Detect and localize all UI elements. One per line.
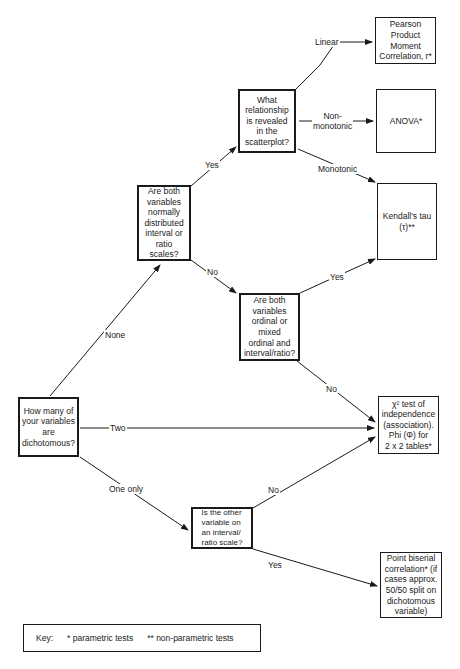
edge-label-yes-normal: Yes xyxy=(204,160,220,170)
node-text: Is the other variable on an interval/ ra… xyxy=(202,508,243,548)
result-text: χ² test of independence (association). P… xyxy=(382,399,435,452)
result-text: Pearson Product Moment Correlation, r* xyxy=(379,19,431,61)
edge-label-no-normal: No xyxy=(206,267,219,277)
result-text: Point biserial correlation* (if cases ap… xyxy=(385,553,438,617)
edge-label-non-monotonic: Non- monotonic xyxy=(312,111,353,131)
node-normal-interval: Are both variables normally distributed … xyxy=(137,185,191,261)
result-text: ANOVA* xyxy=(390,116,422,127)
key-parametric: * parametric tests xyxy=(67,633,133,643)
node-how-many-dichotomous: How many of your variables are dichotomo… xyxy=(18,397,79,457)
node-text: How many of your variables are dichotomo… xyxy=(22,406,75,448)
node-text: Are both variables normally distributed … xyxy=(144,186,183,260)
result-point-biserial: Point biserial correlation* (if cases ap… xyxy=(380,552,442,618)
edge-label-yes-other: Yes xyxy=(267,560,283,570)
edge-label-two: Two xyxy=(109,423,127,433)
edge-label-no-ordinal: No xyxy=(325,384,338,394)
edge-label-text: Non- monotonic xyxy=(313,111,352,131)
edge-label-no-other: No xyxy=(267,485,280,495)
result-chi-square: χ² test of independence (association). P… xyxy=(378,396,439,454)
key-non-parametric: ** non-parametric tests xyxy=(147,633,233,643)
node-scatterplot-relationship: What relationship is revealed in the sca… xyxy=(238,89,296,153)
edge-label-monotonic: Monotonic xyxy=(317,164,358,174)
result-anova: ANOVA* xyxy=(376,89,436,153)
key-title: Key: xyxy=(36,633,53,643)
result-kendall: Kendall's tau (τ)** xyxy=(377,183,437,260)
node-text: What relationship is revealed in the sca… xyxy=(245,95,289,148)
result-text: Kendall's tau (τ)** xyxy=(383,211,431,232)
node-text: Are both variables ordinal or mixed ordi… xyxy=(244,295,295,359)
node-other-interval: Is the other variable on an interval/ ra… xyxy=(191,507,253,549)
edge-label-one-only: One only xyxy=(108,484,144,494)
legend-key: Key: * parametric tests ** non-parametri… xyxy=(23,624,261,652)
result-pearson: Pearson Product Moment Correlation, r* xyxy=(375,17,436,64)
edge-label-yes-ordinal: Yes xyxy=(329,272,345,282)
edge-label-linear: Linear xyxy=(314,37,340,47)
node-ordinal: Are both variables ordinal or mixed ordi… xyxy=(239,293,300,361)
edge-label-none: None xyxy=(104,330,126,340)
